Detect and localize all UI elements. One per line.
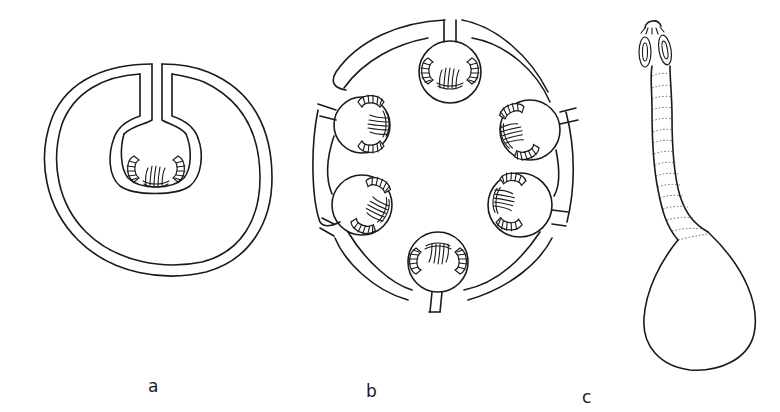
scolex-capsule-bottom xyxy=(408,232,468,312)
bladder-inner-wall xyxy=(57,74,260,265)
scolex-capsule-top xyxy=(419,20,481,103)
panel-a-cysticercus xyxy=(44,64,272,276)
neck-segments xyxy=(652,73,708,240)
sucker-right xyxy=(656,34,673,66)
panel-b-coenurus xyxy=(313,20,578,312)
sucker-left xyxy=(639,37,651,67)
bladder xyxy=(644,232,755,370)
rostellum xyxy=(645,21,661,28)
panel-label-b: b xyxy=(366,383,377,400)
scolex-capsule-lower-left xyxy=(320,174,398,239)
bladder-outer-wall-b xyxy=(313,20,573,312)
neck-outline xyxy=(651,66,708,240)
bladder-outer-wall xyxy=(44,64,272,276)
scolex-capsule-upper-right xyxy=(492,100,578,165)
figure-canvas xyxy=(0,0,780,412)
panel-label-a: a xyxy=(148,378,158,395)
hook-crown-icon xyxy=(641,27,664,34)
panel-c-evaginated-scolex xyxy=(639,21,755,370)
scolex-capsule-lower-right xyxy=(488,171,568,237)
panel-label-c: c xyxy=(582,389,591,406)
scolex-icon xyxy=(127,156,185,187)
